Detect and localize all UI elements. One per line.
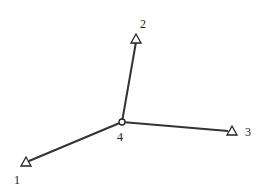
node-3-triangle-icon	[227, 126, 237, 135]
node-4-circle-icon	[119, 119, 125, 125]
node-3-label: 3	[245, 125, 251, 139]
edge-4-1	[29, 122, 122, 161]
edge-4-3	[122, 122, 228, 131]
network-diagram: 1 2 3 4	[0, 0, 269, 185]
node-1-label: 1	[14, 173, 20, 185]
node-2-label: 2	[140, 17, 146, 31]
node-4-label: 4	[117, 130, 123, 144]
edge-4-2	[122, 42, 136, 122]
node-2-triangle-icon	[131, 34, 141, 43]
